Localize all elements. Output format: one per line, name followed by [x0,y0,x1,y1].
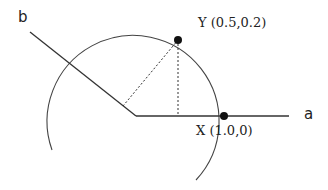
diagram-canvas: b a Y (0.5,0.2) X (1.0,0) [0,0,328,190]
point-x [220,112,228,120]
axis-a-label: a [304,105,313,123]
projection-to-b [123,40,178,106]
point-x-label: X (1.0,0) [196,123,253,138]
axis-b-line [30,32,136,116]
unit-arc [47,35,219,180]
diagram-svg [0,0,328,190]
axis-b-label: b [18,8,28,26]
point-y [174,36,182,44]
point-y-label: Y (0.5,0.2) [198,15,266,30]
